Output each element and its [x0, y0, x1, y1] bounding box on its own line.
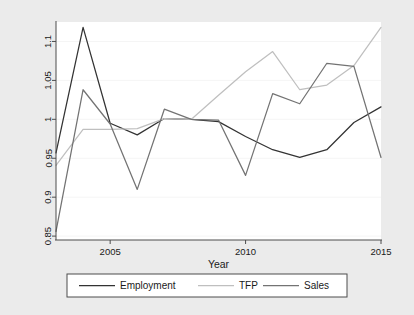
y-tick-label-0: 0.85 — [43, 227, 54, 246]
plot-area-background — [56, 22, 381, 240]
x-axis-title: Year — [208, 258, 230, 270]
y-tick-label-1: 0.9 — [43, 191, 54, 204]
x-tick-label-2: 2015 — [370, 246, 391, 257]
y-tick-label-5: 1.1 — [43, 35, 54, 48]
legend-label-employment: Employment — [120, 280, 176, 291]
legend-label-sales: Sales — [304, 280, 329, 291]
x-tick-label-0: 2005 — [100, 246, 121, 257]
x-tick-label-1: 2010 — [235, 246, 256, 257]
y-tick-label-3: 1 — [43, 117, 54, 122]
legend-label-tfp: TFP — [239, 280, 258, 291]
chart-figure: 0.850.90.9511.051.1 200520102015 Year Em… — [0, 0, 414, 315]
y-tick-label-2: 0.95 — [43, 149, 54, 168]
chart-legend: EmploymentTFPSales — [67, 274, 347, 297]
y-tick-label-4: 1.05 — [43, 71, 54, 90]
line-chart: 0.850.90.9511.051.1 200520102015 Year Em… — [0, 0, 414, 315]
